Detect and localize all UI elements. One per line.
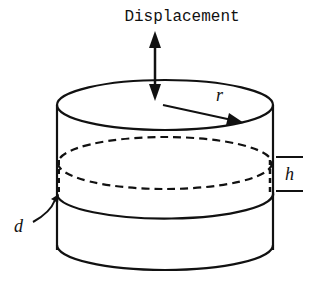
- height-label: h: [285, 164, 294, 184]
- dashed-inner-ellipse: [58, 137, 272, 189]
- cylinder-diagram: Displacement r h d: [0, 0, 322, 289]
- displacement-label: Displacement: [124, 8, 239, 26]
- middle-band-line: [57, 192, 273, 219]
- d-label: d: [14, 216, 24, 236]
- displacement-arrow-icon: [149, 31, 161, 101]
- radius-arrow-icon: [163, 105, 244, 125]
- cylinder-bottom-edge: [57, 245, 273, 270]
- radius-label: r: [216, 85, 224, 105]
- d-pointer-arrow-icon: [33, 194, 59, 222]
